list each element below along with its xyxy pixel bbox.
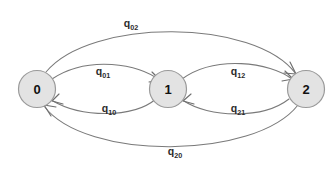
edge-label-sub-q20: 20 (174, 151, 182, 160)
state-transition-diagram: q02 q01 q10 q12 (0, 0, 336, 173)
edge-group-q21: q21 (183, 94, 289, 117)
edge-label-q02: q02 (124, 17, 138, 32)
graph-canvas: q02 q01 q10 q12 (0, 0, 336, 173)
node-state-2[interactable]: 2 (288, 71, 325, 108)
node-label-0: 0 (33, 82, 40, 97)
edge-label-sub-q02: 02 (130, 23, 138, 32)
edge-group-q20: q20 (44, 105, 298, 160)
node-state-0[interactable]: 0 (19, 71, 56, 108)
edge-path-q02 (46, 32, 296, 74)
edge-label-sub-q21: 21 (237, 108, 245, 117)
edge-group-q10: q10 (52, 94, 156, 117)
edge-label-q12: q12 (231, 65, 245, 80)
edge-label-sub-q01: 01 (102, 71, 110, 80)
edge-group-q12: q12 (182, 64, 293, 81)
edge-label-q01: q01 (96, 65, 110, 80)
node-label-2: 2 (302, 82, 309, 97)
node-state-1[interactable]: 1 (150, 71, 187, 108)
arrowhead-icon-q20 (44, 105, 56, 116)
edge-label-sub-q12: 12 (237, 71, 245, 80)
node-label-1: 1 (164, 82, 171, 97)
edge-group-q01: q01 (52, 64, 160, 82)
edge-label-sub-q10: 10 (108, 108, 116, 117)
edge-label-q21: q21 (231, 102, 245, 117)
edge-label-q10: q10 (102, 102, 116, 117)
